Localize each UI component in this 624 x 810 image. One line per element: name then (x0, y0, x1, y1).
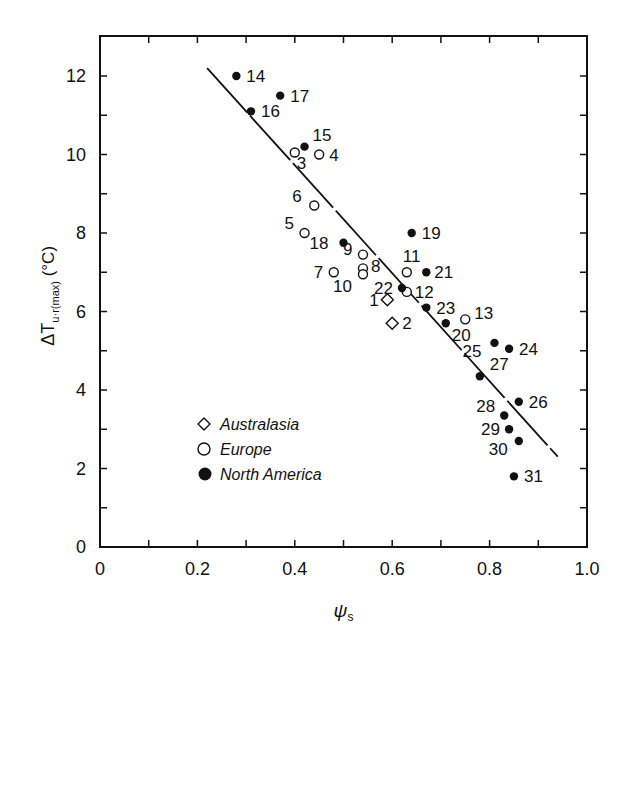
filled-circle-marker (515, 398, 523, 406)
y-tick-label: 12 (66, 66, 86, 86)
point-label: 23 (436, 299, 455, 318)
open-circle-marker (461, 315, 470, 324)
scatter-chart: 00.20.40.60.81.0 024681012 1234567891011… (0, 0, 624, 810)
filled-circle-marker (232, 72, 240, 80)
open-circle-marker (310, 201, 319, 210)
y-tick-label: 8 (76, 223, 86, 243)
point-label: 30 (489, 440, 508, 459)
point-label: 19 (422, 224, 441, 243)
legend-label: Europe (220, 441, 272, 458)
open-circle-marker (315, 150, 324, 159)
legend-open-circle-icon (198, 443, 210, 455)
filled-circle-marker (505, 425, 513, 433)
open-diamond-marker (386, 317, 398, 329)
data-point: 24 (505, 340, 538, 359)
point-label: 25 (462, 342, 481, 361)
legend-item: Europe (198, 441, 272, 458)
point-label: 10 (333, 277, 352, 296)
point-label: 15 (313, 126, 332, 145)
point-label: 5 (285, 214, 294, 233)
y-axis-title: ΔTu·r(max) (°C) (38, 246, 61, 346)
open-circle-marker (329, 268, 338, 277)
data-point: 14 (232, 67, 265, 86)
point-label: 6 (292, 187, 301, 206)
x-tick-label: 0.4 (282, 559, 307, 579)
x-tick-label: 1.0 (574, 559, 599, 579)
data-point: 5 (285, 214, 310, 238)
y-tick-label: 4 (76, 380, 86, 400)
data-point: 21 (422, 263, 453, 282)
point-label: 28 (476, 397, 495, 416)
filled-circle-marker (510, 472, 518, 480)
point-label: 8 (371, 257, 380, 276)
point-label: 3 (297, 154, 306, 173)
open-circle-marker (358, 250, 367, 259)
point-label: 29 (481, 420, 500, 439)
point-label: 2 (402, 314, 411, 333)
data-point: 18 (310, 234, 348, 253)
data-point: 6 (292, 187, 319, 211)
legend-label: Australasia (219, 416, 299, 433)
filled-circle-marker (300, 142, 308, 150)
x-tick-label: 0.2 (185, 559, 210, 579)
y-tick-label: 2 (76, 459, 86, 479)
point-label: 17 (290, 87, 309, 106)
filled-circle-marker (422, 303, 430, 311)
x-tick-label: 0.8 (477, 559, 502, 579)
x-tick-label: 0 (95, 559, 105, 579)
data-point: 15 (300, 126, 331, 151)
open-circle-marker (358, 270, 367, 279)
open-circle-marker (402, 268, 411, 277)
regression-line (207, 68, 558, 457)
filled-circle-marker (442, 319, 450, 327)
filled-circle-marker (398, 284, 406, 292)
data-point: 26 (515, 393, 548, 412)
x-tick-label: 0.6 (380, 559, 405, 579)
open-circle-marker (300, 229, 309, 238)
x-axis-tick-labels: 00.20.40.60.81.0 (95, 559, 600, 579)
x-axis-title: ψs (334, 600, 354, 624)
legend-item: North America (199, 466, 322, 483)
point-label: 12 (415, 283, 434, 302)
point-label: 27 (490, 355, 509, 374)
data-point: 28 (476, 397, 508, 420)
legend-diamond-icon (198, 418, 210, 430)
point-label: 18 (310, 234, 329, 253)
filled-circle-marker (515, 437, 523, 445)
data-point: 3 (290, 148, 306, 173)
data-point: 4 (315, 146, 339, 165)
point-label: 11 (403, 247, 421, 266)
data-point: 2 (386, 314, 411, 333)
data-point: 19 (407, 224, 440, 243)
legend-filled-circle-icon (199, 468, 212, 481)
point-label: 14 (246, 67, 265, 86)
filled-circle-marker (276, 91, 284, 99)
filled-circle-marker (490, 339, 498, 347)
data-point: 12 (402, 283, 433, 302)
y-tick-label: 6 (76, 302, 86, 322)
point-label: 31 (524, 467, 543, 486)
filled-circle-marker (505, 345, 513, 353)
regression-line-path (207, 68, 558, 457)
y-tick-label: 0 (76, 537, 86, 557)
point-label: 26 (529, 393, 548, 412)
legend: AustralasiaEuropeNorth America (198, 416, 322, 483)
legend-item: Australasia (198, 416, 299, 433)
filled-circle-marker (247, 107, 255, 115)
filled-circle-marker (339, 239, 347, 247)
legend-label: North America (220, 466, 322, 483)
point-label: 16 (261, 102, 280, 121)
point-label: 22 (374, 279, 393, 298)
point-label: 7 (314, 263, 323, 282)
point-label: 21 (434, 263, 453, 282)
data-point: 22 (374, 279, 406, 298)
point-label: 24 (519, 340, 538, 359)
data-point: 31 (510, 467, 543, 486)
y-tick-label: 10 (66, 145, 86, 165)
data-point: 30 (489, 437, 523, 459)
filled-circle-marker (500, 411, 508, 419)
filled-circle-marker (422, 268, 430, 276)
data-point: 11 (402, 247, 420, 277)
point-label: 4 (329, 146, 338, 165)
data-point: 13 (461, 304, 493, 324)
